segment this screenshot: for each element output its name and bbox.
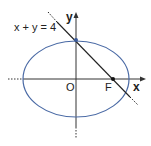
line-equation-label: x + y = 4 — [14, 21, 56, 33]
line-dashed-bottom — [130, 97, 138, 105]
origin-label: O — [66, 81, 75, 93]
x-axis-label: x — [133, 80, 140, 94]
top-intersection-point — [74, 38, 78, 42]
y-axis-arrow-icon — [74, 12, 79, 18]
y-axis-label: y — [66, 10, 73, 24]
focus-label: F — [105, 81, 112, 93]
x-axis-arrow-icon — [140, 77, 146, 82]
diagram-canvas: x + y = 4 y x O F — [0, 0, 151, 146]
